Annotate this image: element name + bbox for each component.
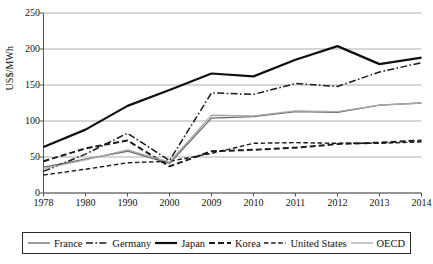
legend-label: Germany [112,238,151,249]
x-axis-tick-label: 1990 [108,197,148,208]
x-axis-tick-labels: 1978198019902000200920102011201220132014 [0,197,433,213]
legend-label: Korea [235,238,261,249]
x-axis-tick-label: 2009 [192,197,232,208]
solid-thick-line-icon [155,239,177,247]
legend-label: OECD [377,238,406,249]
solid-light-gray-line-icon [351,239,373,247]
series-line-korea [44,140,422,166]
x-axis-tick-label: 1980 [66,197,106,208]
dash-dot-line-icon [86,239,108,247]
legend-label: France [54,238,83,249]
solid-thin-gray-line-icon [28,239,50,247]
x-axis-tick-label: 2011 [276,197,316,208]
legend-item-germany[interactable]: Germany [86,238,151,249]
legend-item-france[interactable]: France [28,238,83,249]
line-chart: US$/MWh 050100150200250 1978198019902000… [0,0,433,264]
legend-label: United States [290,238,346,249]
x-axis-tick-label: 2012 [318,197,358,208]
dashed-thin-line-icon [264,239,286,247]
x-axis-tick-label: 2000 [150,197,190,208]
x-axis-tick-label: 2010 [234,197,274,208]
legend-item-oecd[interactable]: OECD [351,238,406,249]
legend-item-japan[interactable]: Japan [155,238,205,249]
series-line-oecd [44,103,422,169]
legend-item-united-states[interactable]: United States [264,238,346,249]
x-axis-tick-label: 1978 [24,197,64,208]
legend-item-korea[interactable]: Korea [209,238,261,249]
dashed-thick-line-icon [209,239,231,247]
chart-legend: FranceGermanyJapanKoreaUnited StatesOECD [22,232,411,254]
series-line-japan [44,46,422,147]
legend-label: Japan [181,238,205,249]
x-axis-tick-label: 2013 [360,197,400,208]
series-line-france [44,103,422,167]
series-line-united-states [44,142,422,175]
plot-area [0,0,433,215]
x-axis-tick-label: 2014 [402,197,433,208]
